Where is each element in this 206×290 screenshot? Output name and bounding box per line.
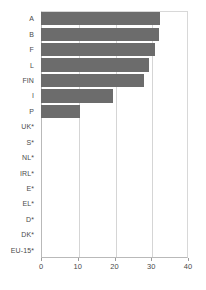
x-tick-mark-30 [151,258,152,261]
category-label-dk: DK* [0,227,38,242]
bar-row [41,182,188,195]
category-label-uk: UK* [0,119,38,134]
category-label-nl: NL* [0,150,38,165]
x-tick-mark-20 [115,258,116,261]
bar [41,89,113,102]
category-label-fin: FIN [0,73,38,88]
bar-row [41,166,188,179]
bar-row [41,136,188,149]
category-label-irl: IRL* [0,165,38,180]
bar-row [41,74,188,87]
bar-row [41,105,188,118]
category-label-l: L [0,57,38,72]
bar-row [41,12,188,25]
bar [41,58,149,71]
category-label-el: EL* [0,196,38,211]
bars-layer [41,11,188,258]
bar-row [41,58,188,71]
x-tick-label-20: 20 [110,262,118,271]
category-label-f: F [0,42,38,57]
category-label-a: A [0,11,38,26]
bar-row [41,120,188,133]
category-axis-labels: ABFLFINIPUK*S*NL*IRL*E*EL*D*DK*EU-15* [0,11,38,258]
bar-row [41,197,188,210]
bar-chart: ABFLFINIPUK*S*NL*IRL*E*EL*D*DK*EU-15* 01… [0,0,206,290]
bar-row [41,244,188,257]
bar [41,74,144,87]
bar-row [41,228,188,241]
category-label-p: P [0,104,38,119]
bar [41,28,159,41]
bar-row [41,43,188,56]
category-label-i: I [0,88,38,103]
category-label-eu15: EU-15* [0,243,38,258]
bar [41,12,160,25]
bar-row [41,89,188,102]
x-tick-label-40: 40 [184,262,192,271]
category-label-e: E* [0,181,38,196]
value-axis-labels: 010203040 [41,262,188,276]
x-tick-label-10: 10 [74,262,82,271]
bar [41,43,155,56]
x-tick-mark-40 [188,258,189,261]
x-tick-mark-10 [78,258,79,261]
category-label-b: B [0,26,38,41]
category-label-d: D* [0,212,38,227]
bar [41,105,80,118]
category-label-s: S* [0,135,38,150]
bar-row [41,151,188,164]
x-tick-label-0: 0 [39,262,43,271]
bar-row [41,213,188,226]
bar-row [41,28,188,41]
x-tick-mark-0 [41,258,42,261]
x-tick-label-30: 30 [147,262,155,271]
